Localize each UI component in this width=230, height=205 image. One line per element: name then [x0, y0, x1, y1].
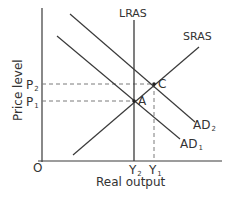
- ad1-label: AD1: [180, 138, 203, 150]
- y1-label-sub: 1: [157, 170, 161, 178]
- lras-label: LRAS: [119, 8, 147, 19]
- p2-label-sub: 2: [34, 85, 38, 93]
- y2-label-sub: 2: [137, 170, 141, 178]
- ad1-label-text: AD: [180, 137, 197, 151]
- point-c-marker: [152, 82, 156, 86]
- origin-label: O: [33, 162, 42, 174]
- ad2-curve: [70, 14, 195, 122]
- x-axis-label: Real output: [96, 176, 165, 188]
- p2-label: P2: [26, 79, 39, 91]
- ad2-label: AD2: [193, 119, 216, 131]
- y1-label-text: Y: [149, 163, 156, 177]
- p2-label-text: P: [26, 78, 33, 92]
- point-c-label: C: [158, 78, 166, 90]
- ad2-label-text: AD: [193, 118, 210, 132]
- ad2-label-sub: 2: [211, 125, 215, 133]
- sras-label: SRAS: [183, 31, 212, 42]
- p1-label: P1: [26, 96, 39, 108]
- p1-label-sub: 1: [34, 102, 38, 110]
- y-axis-label: Price level: [12, 59, 24, 121]
- point-a-marker: [132, 99, 136, 103]
- y2-label-text: Y: [129, 163, 136, 177]
- y2-label: Y2: [129, 164, 142, 176]
- y1-label: Y1: [149, 164, 162, 176]
- p1-label-text: P: [26, 95, 33, 109]
- ad1-label-sub: 1: [198, 144, 202, 152]
- point-a-label: A: [138, 95, 146, 107]
